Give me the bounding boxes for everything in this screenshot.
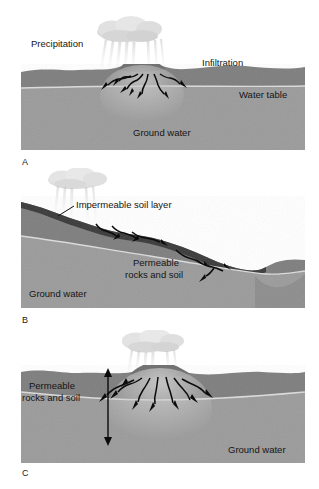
- panel-a-permeable-ground: Precipitation Infiltration Water table G…: [0, 0, 319, 162]
- panel-c-deep-permeable: Permeable rocks and soil Ground water: [0, 330, 319, 465]
- panel-label-c: C: [22, 468, 29, 478]
- label-permeable-line-2: rocks and soil: [125, 269, 183, 280]
- label-impermeable-soil-layer: Impermeable soil layer: [76, 199, 172, 210]
- label-ground-water: Ground water: [133, 127, 191, 138]
- label-infiltration: Infiltration: [202, 57, 243, 68]
- cloud-icon: [122, 330, 184, 353]
- label-permeable-line-2: rocks and soil: [22, 392, 80, 403]
- label-ground-water: Ground water: [228, 444, 286, 455]
- label-ground-water: Ground water: [29, 288, 87, 299]
- label-permeable-line-1: Permeable: [133, 257, 179, 268]
- label-water-table: Water table: [239, 89, 287, 100]
- panel-label-a: A: [22, 157, 28, 167]
- panel-b-impermeable-layer: Impermeable soil layer Permeable rocks a…: [0, 168, 319, 313]
- groundwater-figure: Precipitation Infiltration Water table G…: [0, 0, 319, 489]
- cloud-icon: [48, 168, 107, 189]
- cloud-icon: [97, 16, 162, 42]
- panel-label-b: B: [22, 315, 28, 325]
- label-permeable-line-1: Permeable: [29, 380, 75, 391]
- label-precipitation: Precipitation: [31, 38, 83, 49]
